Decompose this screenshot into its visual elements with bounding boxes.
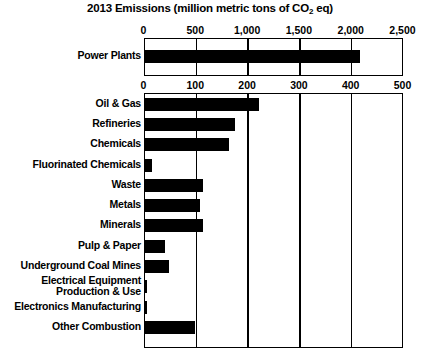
axis-tick-label: 500 [187,24,205,36]
bar-power-plants [145,50,360,63]
chart-title-suffix: eq) [313,2,333,14]
bar-row [145,118,402,131]
axis-tick-label: 0 [141,79,147,91]
axis-tick-label: 400 [342,79,360,91]
bar-metals [145,199,201,212]
bar-row [145,260,402,273]
category-label-chemicals: Chemicals [0,138,141,149]
category-label-refineries: Refineries [0,118,141,129]
category-label-other-combustion: Other Combustion [0,321,141,332]
bar-row [145,219,402,232]
bar-row [145,321,402,334]
axis-tick-label: 0 [141,24,147,36]
bar-minerals [145,219,203,232]
axis-tick-label: 100 [187,79,205,91]
bar-row [145,98,402,111]
axis-tick-label: 500 [394,79,412,91]
bar-row [145,138,402,151]
bar-oil-gas [145,98,260,111]
bar-row [145,301,402,314]
bar-row [145,280,402,293]
category-label-fluorinated-chemicals: Fluorinated Chemicals [0,159,141,170]
bar-electronics-manufacturing [145,301,148,314]
category-label-metals: Metals [0,199,141,210]
bar-chemicals [145,138,229,151]
axis-tick-label: 1,500 [286,24,312,36]
axis-tick-label: 1,000 [234,24,260,36]
category-label-waste: Waste [0,179,141,190]
axis-tick-label: 200 [238,79,256,91]
category-label-electronics-manufacturing: Electronics Manufacturing [0,301,141,312]
bar-other-combustion [145,321,195,334]
category-label-column: Power PlantsOil & GasRefineriesChemicals… [0,0,141,351]
category-label-power-plants: Power Plants [0,50,141,61]
panel-power-plants [144,38,403,76]
bar-pulp-paper [145,240,166,253]
chart-root: 2013 Emissions (million metric tons of C… [0,0,424,351]
category-label-underground-coal-mines: Underground Coal Mines [0,260,141,271]
category-label-minerals: Minerals [0,219,141,230]
bar-row [145,179,402,192]
category-label-pulp-paper: Pulp & Paper [0,240,141,251]
bar-fluorinated-chemicals [145,159,152,172]
bar-waste [145,179,204,192]
category-label-electrical-equipment-production-use: Electrical Equipment Production & Use [0,275,141,297]
bar-row [145,50,402,63]
bar-row [145,199,402,212]
category-label-oil-gas: Oil & Gas [0,98,141,109]
panel-sectors [144,93,403,348]
axis-tick-label: 2,500 [389,24,415,36]
bar-row [145,159,402,172]
chart-title-subscript: 2 [309,7,313,16]
bar-row [145,240,402,253]
bar-refineries [145,118,236,131]
axis-tick-label: 300 [290,79,308,91]
bar-electrical-equipment-production-use [145,280,147,293]
bar-underground-coal-mines [145,260,169,273]
axis-tick-label: 2,000 [338,24,364,36]
